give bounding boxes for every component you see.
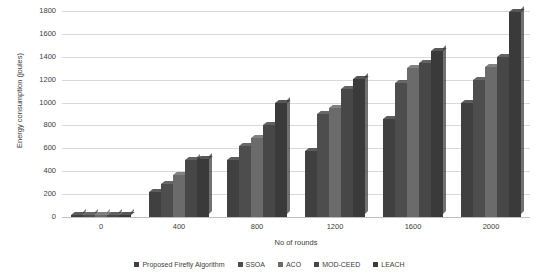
- bar: [95, 215, 107, 217]
- bar-face: [263, 125, 275, 217]
- bar-top: [119, 212, 135, 215]
- legend-swatch-icon: [314, 262, 319, 267]
- bar: [329, 108, 341, 217]
- bar-side: [443, 45, 446, 214]
- legend-label: Proposed Firefly Algorithm: [142, 261, 224, 268]
- bar-face: [227, 160, 239, 217]
- bar-face: [173, 175, 185, 217]
- bar: [473, 80, 485, 217]
- bar-side: [365, 73, 368, 214]
- bar: [251, 138, 263, 217]
- bar: [71, 215, 83, 217]
- bar: [383, 119, 395, 217]
- legend-swatch-icon: [373, 262, 378, 267]
- bar: [107, 215, 119, 217]
- bar-face: [161, 184, 173, 217]
- legend-swatch-icon: [238, 262, 243, 267]
- bar-face: [149, 192, 161, 217]
- bar: [263, 125, 275, 217]
- bar: [227, 160, 239, 217]
- bar-side: [521, 6, 524, 214]
- bar-face: [419, 63, 431, 218]
- bar: [305, 151, 317, 217]
- bar: [185, 160, 197, 217]
- bar-group: [296, 11, 374, 217]
- chart-legend: Proposed Firefly AlgorithmSSOAACOMOD-CEE…: [0, 261, 539, 268]
- bar: [509, 12, 521, 217]
- legend-swatch-icon: [278, 262, 283, 267]
- legend-label: ACO: [286, 261, 301, 268]
- legend-label: MOD-CEED: [322, 261, 360, 268]
- bar: [341, 89, 353, 217]
- legend-item[interactable]: MOD-CEED: [314, 261, 360, 268]
- x-axis-tick-label: 1600: [374, 222, 452, 231]
- legend-item[interactable]: SSOA: [238, 261, 265, 268]
- bar: [317, 114, 329, 217]
- bar-face: [107, 215, 119, 217]
- bar-face: [119, 215, 131, 217]
- bar-face: [275, 103, 287, 217]
- bar: [197, 159, 209, 217]
- bar: [485, 67, 497, 217]
- bar: [83, 215, 95, 217]
- bar: [395, 83, 407, 217]
- x-axis-tick-labels: 0400800120016002000: [62, 222, 530, 231]
- y-axis-tick-label: 400: [10, 167, 56, 175]
- bar-group: [62, 11, 140, 217]
- y-axis-tick-label: 1000: [10, 99, 56, 107]
- x-axis-tick-label: 1200: [296, 222, 374, 231]
- bar: [275, 103, 287, 217]
- bar-face: [509, 12, 521, 217]
- bar: [353, 79, 365, 217]
- bar: [407, 68, 419, 217]
- grid-line: [62, 217, 530, 218]
- bar-face: [95, 215, 107, 217]
- bar-group: [140, 11, 218, 217]
- bar-face: [407, 68, 419, 217]
- bar-face: [461, 103, 473, 217]
- y-axis-tick-label: 600: [10, 145, 56, 153]
- legend-swatch-icon: [134, 262, 139, 267]
- x-axis-tick-label: 2000: [452, 222, 530, 231]
- bar-face: [317, 114, 329, 217]
- bar-face: [473, 80, 485, 217]
- y-axis-tick-label: 0: [10, 213, 56, 221]
- bar: [149, 192, 161, 217]
- bar-face: [383, 119, 395, 217]
- y-axis-tick-label: 1400: [10, 53, 56, 61]
- bar: [161, 184, 173, 217]
- x-axis-tick-label: 400: [140, 222, 218, 231]
- bar-group: [452, 11, 530, 217]
- bar-face: [185, 160, 197, 217]
- y-axis-tick-label: 1600: [10, 30, 56, 38]
- bar-face: [497, 57, 509, 217]
- legend-label: SSOA: [246, 261, 265, 268]
- bar-face: [71, 215, 83, 217]
- bar: [431, 51, 443, 217]
- legend-label: LEACH: [381, 261, 404, 268]
- bar-face: [341, 89, 353, 217]
- bar-side: [287, 97, 290, 214]
- bar-face: [395, 83, 407, 217]
- bar-face: [329, 108, 341, 217]
- y-axis-tick-labels: 180016001400120010008006004002000: [8, 11, 56, 217]
- bar-face: [251, 138, 263, 217]
- y-axis-tick-label: 1200: [10, 76, 56, 84]
- bar-side: [209, 153, 212, 214]
- bar: [173, 175, 185, 217]
- bar-group: [218, 11, 296, 217]
- bar: [119, 215, 131, 217]
- y-axis-tick-label: 1800: [10, 7, 56, 15]
- bar-face: [353, 79, 365, 217]
- legend-item[interactable]: ACO: [278, 261, 301, 268]
- x-axis-tick-label: 0: [62, 222, 140, 231]
- x-axis-tick-label: 800: [218, 222, 296, 231]
- bar-face: [431, 51, 443, 217]
- legend-item[interactable]: LEACH: [373, 261, 404, 268]
- bar-face: [485, 67, 497, 217]
- bar-groups: [62, 11, 530, 217]
- bar: [239, 146, 251, 217]
- y-axis-tick-label: 800: [10, 122, 56, 130]
- legend-item[interactable]: Proposed Firefly Algorithm: [134, 261, 224, 268]
- bar: [419, 63, 431, 218]
